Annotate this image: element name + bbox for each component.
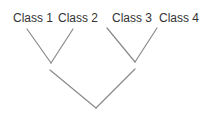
tree-edge xyxy=(107,28,135,62)
leaf-label-class-2: Class 2 xyxy=(58,12,98,24)
leaf-label-class-1: Class 1 xyxy=(13,12,53,24)
tree-edge xyxy=(27,29,51,63)
tree-edge xyxy=(135,28,157,62)
tree-edge xyxy=(50,70,96,108)
tree-edge xyxy=(96,69,135,108)
tree-edge xyxy=(51,29,73,63)
leaf-label-class-3: Class 3 xyxy=(112,12,152,24)
leaf-label-class-4: Class 4 xyxy=(159,12,199,24)
tree-diagram: Class 1 Class 2 Class 3 Class 4 xyxy=(0,0,205,118)
